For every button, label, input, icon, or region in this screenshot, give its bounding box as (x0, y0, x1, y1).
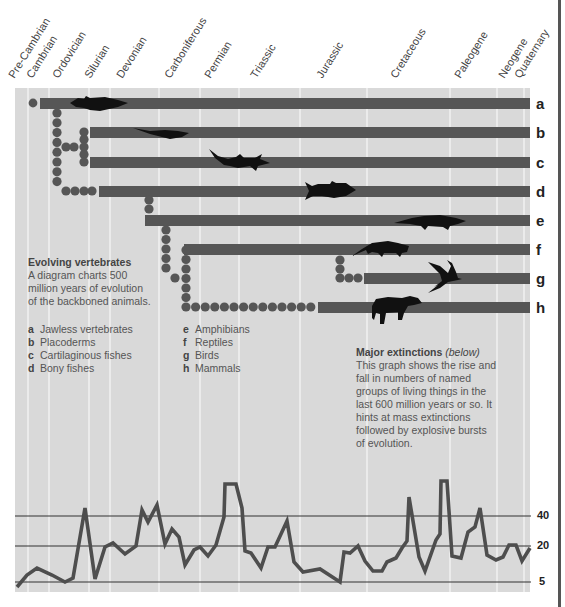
legend-column-1: aJawless vertebrates bPlacoderms cCartil… (28, 323, 133, 375)
branch-dot (201, 302, 210, 311)
branch-dot (344, 273, 353, 282)
branch-dot (268, 302, 277, 311)
row-letter-f: f (536, 241, 541, 258)
legend-item-e: eAmphibians (183, 323, 250, 336)
branch-dot (306, 302, 315, 311)
intro-line-3: of the backboned animals. (28, 295, 151, 308)
branch-dot (161, 263, 170, 272)
branch-dot (181, 274, 190, 283)
extinctions-line-7: of evolution. (356, 437, 496, 450)
branch-dot (61, 186, 70, 195)
legend-item-d: dBony fishes (28, 362, 133, 375)
row-letter-c: c (536, 154, 544, 171)
extinctions-line-6: followed by explosive bursts (356, 424, 496, 437)
branch-dot (181, 245, 190, 254)
branch-dot (52, 177, 61, 186)
branch-dot (335, 273, 344, 282)
intro-text: Evolving vertebrates A diagram charts 50… (28, 256, 151, 308)
branch-dot (297, 302, 306, 311)
extinctions-line-4: last 600 million years or so. It (356, 398, 496, 411)
branch-dot (61, 142, 70, 151)
branch-dot (335, 255, 344, 264)
extinctions-title: Major extinctions (below) (356, 346, 496, 359)
bar-e (145, 215, 530, 226)
right-border (558, 0, 561, 607)
row-letter-g: g (536, 270, 545, 287)
extinctions-line-5: hints at mass extinctions (356, 411, 496, 424)
branch-dot (181, 264, 190, 273)
branch-dot (52, 157, 61, 166)
row-letter-e: e (536, 212, 544, 229)
branch-dot (181, 255, 190, 264)
branch-dot (181, 293, 190, 302)
branch-dot (70, 186, 79, 195)
row-letter-a: a (536, 95, 544, 112)
branch-dot (239, 302, 248, 311)
intro-line-2: million years of evolution (28, 282, 151, 295)
bar-c (90, 157, 530, 168)
branch-dot (87, 186, 96, 195)
extinctions-line-2: fall in numbers of named (356, 372, 496, 385)
branch-dot (161, 244, 170, 253)
legend-column-2: eAmphibians fReptiles gBirds hMammals (183, 323, 250, 375)
legend-item-f: fReptiles (183, 336, 250, 349)
legend-item-c: cCartilaginous fishes (28, 349, 133, 362)
vertebrate-evolution-figure: Pre-CambrianCambrianOrdovicianSilurianDe… (0, 0, 565, 607)
branch-dot (258, 302, 267, 311)
branch-dot (52, 167, 61, 176)
branch-dot (144, 204, 153, 213)
legend-item-g: gBirds (183, 349, 250, 362)
y-tick-20: 20 (537, 539, 549, 551)
extinctions-line-1: This graph shows the rise and (356, 359, 496, 372)
branch-dot (191, 302, 200, 311)
legend-item-h: hMammals (183, 362, 250, 375)
branch-dot (287, 302, 296, 311)
branch-dot (210, 302, 219, 311)
legend-item-a: aJawless vertebrates (28, 323, 133, 336)
branch-dot (144, 195, 153, 204)
branch-dot (52, 108, 61, 117)
extinctions-text: Major extinctions (below) This graph sho… (356, 346, 496, 450)
branch-dot (181, 302, 190, 311)
branch-dot (170, 273, 179, 282)
branch-dot (335, 264, 344, 273)
branch-dot (220, 302, 229, 311)
y-tick-40: 40 (537, 509, 549, 521)
branch-dot (52, 148, 61, 157)
branch-dot (161, 225, 170, 234)
branch-dot (29, 99, 38, 108)
legend-item-b: bPlacoderms (28, 336, 133, 349)
branch-dot (52, 118, 61, 127)
branch-dot (181, 283, 190, 292)
branch-dot (79, 186, 88, 195)
branch-dot (161, 254, 170, 263)
intro-line-1: A diagram charts 500 (28, 269, 151, 282)
row-letter-b: b (536, 124, 545, 141)
branch-dot (229, 302, 238, 311)
extinctions-line-3: groups of living things in the (356, 385, 496, 398)
branch-dot (52, 138, 61, 147)
branch-dot (249, 302, 258, 311)
branch-dot (79, 157, 88, 166)
intro-title: Evolving vertebrates (28, 256, 151, 269)
y-tick-5: 5 (539, 575, 545, 587)
bar-h (318, 302, 530, 313)
branch-dot (353, 273, 362, 282)
branch-dot (52, 128, 61, 137)
row-letter-d: d (536, 183, 545, 200)
row-letter-h: h (536, 299, 545, 316)
branch-dot (69, 142, 78, 151)
branch-dot (161, 235, 170, 244)
branch-dot (277, 302, 286, 311)
